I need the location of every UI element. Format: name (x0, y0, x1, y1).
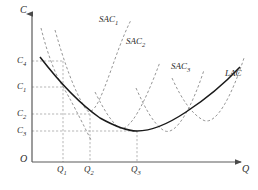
sac-curve-1 (41, 28, 91, 140)
guide-lines (32, 61, 137, 162)
x-axis-label: Q (242, 163, 249, 174)
tick-label-q2: Q2 (84, 164, 94, 176)
tick-label-q3: Q3 (131, 164, 141, 176)
origin-label: O (20, 153, 27, 164)
curve-label-lac: LAC (225, 68, 242, 80)
tick-label-c1: C1 (17, 81, 26, 93)
curve-label-sac3: SAC3 (171, 61, 190, 73)
tick-label-c4: C4 (17, 55, 26, 67)
tick-label-q1: Q1 (57, 164, 67, 176)
diagram-canvas (0, 0, 258, 190)
curve-label-sac2: SAC2 (126, 36, 145, 48)
sac-curve-3 (95, 62, 160, 128)
cost-curves-diagram: C Q O C4 C1 C2 C3 Q1 Q2 Q3 SAC1 SAC2 SAC… (0, 0, 258, 190)
tick-label-c2: C2 (17, 108, 26, 120)
sac-curve-2 (55, 20, 131, 111)
lac-curve (40, 57, 240, 131)
tick-label-c3: C3 (17, 125, 26, 137)
y-axis-label: C (20, 4, 27, 15)
curve-label-sac1: SAC1 (99, 14, 118, 26)
